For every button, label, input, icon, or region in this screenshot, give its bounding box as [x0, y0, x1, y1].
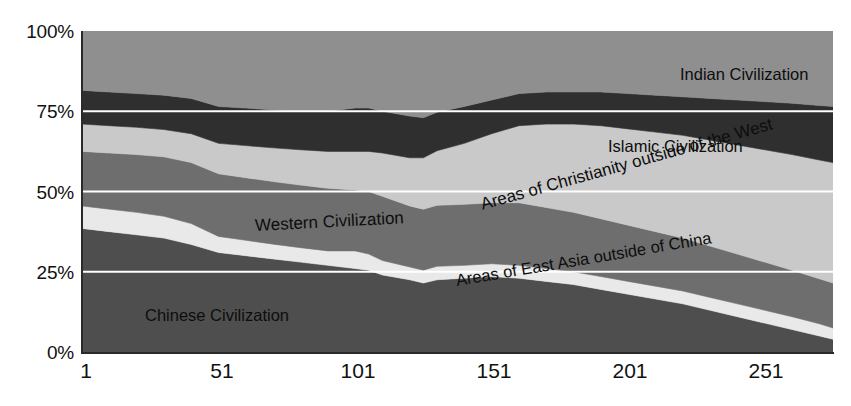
x-tick-201: 201 [612, 360, 647, 381]
x-tick-101: 101 [340, 360, 375, 381]
y-axis: 100% 75% 50% 25% 0% [0, 0, 78, 406]
y-tick-50: 50% [37, 183, 74, 202]
x-tick-151: 151 [476, 360, 511, 381]
series-label-indian-civilization: Indian Civilization [680, 66, 808, 83]
y-tick-25: 25% [37, 263, 74, 282]
x-tick-251: 251 [748, 360, 783, 381]
x-axis-line [81, 352, 834, 354]
x-tick-51: 51 [210, 360, 233, 381]
series-label-chinese-civilization: Chinese Civilization [145, 307, 289, 324]
y-tick-75: 75% [37, 102, 74, 121]
stacked-area-chart: 100% 75% 50% 25% 0% 1 51 101 151 201 251… [0, 0, 851, 406]
y-tick-100: 100% [26, 22, 74, 41]
y-axis-line [81, 31, 83, 354]
y-tick-0: 0% [47, 343, 74, 362]
x-tick-1: 1 [80, 360, 92, 381]
